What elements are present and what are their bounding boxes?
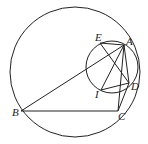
label-e: E bbox=[94, 31, 102, 43]
segment-ae bbox=[100, 43, 124, 45]
label-c: C bbox=[118, 110, 126, 122]
label-b: B bbox=[12, 106, 19, 118]
segment-id bbox=[101, 83, 129, 90]
geometry-diagram: A B C D E I bbox=[0, 0, 148, 144]
label-d: D bbox=[130, 80, 139, 92]
label-a: A bbox=[125, 35, 133, 47]
